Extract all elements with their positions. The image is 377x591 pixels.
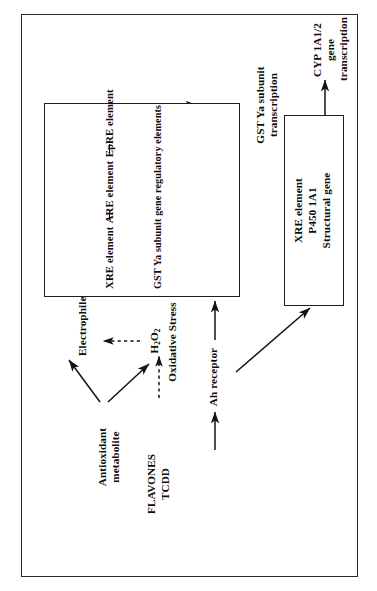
- p450-box-line-3: Structural gene: [320, 119, 333, 302]
- box-row-epre: EpRE element: [103, 89, 116, 157]
- node-antioxidant-metabolite: Antioxidant metabolite: [96, 402, 122, 512]
- diagram-canvas: Antioxidant metabolite Electrophiles H2O…: [22, 15, 359, 578]
- box-row-xre: XRE element: [103, 226, 116, 289]
- wire-antioxidant-to-h2o2: [108, 364, 149, 402]
- dash-xre-are: [109, 210, 111, 220]
- wire-ah-receptor-to-p450: [236, 308, 310, 372]
- figure-border: Antioxidant metabolite Electrophiles H2O…: [21, 14, 358, 577]
- label-gst-ya-transcription: GST Ya subunit transcription: [254, 49, 280, 161]
- node-oxidative-stress: Oxidative Stress: [166, 292, 179, 392]
- p450-box-line-1: XRE element: [292, 119, 305, 302]
- box-row-gst-regulatory: GST Ya subunit gene regulatory elements: [152, 109, 164, 289]
- gst-regulatory-elements-box: [44, 103, 240, 297]
- p450-box-line-2: P450 1A1: [306, 119, 319, 302]
- node-ah-receptor: Ah receptor: [207, 338, 220, 416]
- figure-page: Antioxidant metabolite Electrophiles H2O…: [0, 0, 377, 591]
- label-cyp-transcription: CYP 1A1/2 gene transcription: [311, 19, 351, 81]
- rotated-diagram-wrapper: Antioxidant metabolite Electrophiles H2O…: [22, 15, 359, 578]
- node-tcdd: TCDD: [159, 448, 172, 520]
- node-flavones: FLAVONES: [145, 448, 158, 520]
- node-h2o2: H2O2: [148, 316, 163, 366]
